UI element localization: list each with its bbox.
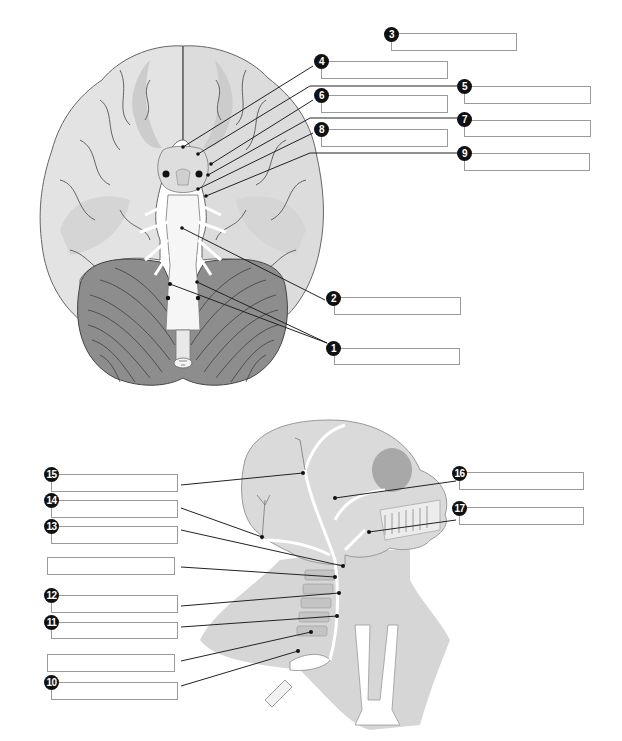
answer-box-13[interactable] <box>51 526 178 544</box>
answer-input-6[interactable] <box>322 98 447 114</box>
answer-input-13[interactable] <box>52 529 177 545</box>
answer-box-17[interactable] <box>459 507 584 525</box>
badge-3: 3 <box>384 27 399 42</box>
badge-13: 13 <box>44 519 59 534</box>
answer-input-2[interactable] <box>335 300 460 316</box>
answer-box-14[interactable] <box>51 500 178 518</box>
answer-box-4[interactable] <box>321 61 448 79</box>
answer-input-1[interactable] <box>335 352 459 367</box>
answer-box-2[interactable] <box>334 297 461 315</box>
badge-6: 6 <box>314 88 329 103</box>
badge-17: 17 <box>452 501 467 516</box>
answer-box-12[interactable] <box>51 595 178 613</box>
badge-10: 10 <box>44 675 59 690</box>
badge-1: 1 <box>326 341 341 356</box>
answer-input-7[interactable] <box>465 124 590 139</box>
badge-15: 15 <box>44 467 59 482</box>
answer-input-5[interactable] <box>465 89 590 105</box>
badge-8: 8 <box>314 122 329 137</box>
badge-7: 7 <box>457 112 472 127</box>
answer-box-5[interactable] <box>464 86 591 104</box>
badge-5: 5 <box>457 79 472 94</box>
answer-input-10[interactable] <box>52 685 177 701</box>
answer-input-11[interactable] <box>52 626 177 641</box>
badge-11: 11 <box>44 615 59 630</box>
answer-input-unnumbered-b[interactable] <box>48 657 174 673</box>
answer-input-4[interactable] <box>322 64 447 80</box>
answer-box-7[interactable] <box>464 120 591 137</box>
answer-input-14[interactable] <box>52 503 177 519</box>
answer-input-17[interactable] <box>460 510 583 526</box>
answer-box-10[interactable] <box>51 682 178 700</box>
answer-input-12[interactable] <box>52 598 177 614</box>
skull <box>242 420 447 565</box>
answer-input-8[interactable] <box>322 132 447 148</box>
brain-inferior-view <box>40 46 323 385</box>
answer-input-9[interactable] <box>465 156 589 172</box>
answer-box-1[interactable] <box>334 348 460 365</box>
head-neck-lateral-view <box>200 420 450 730</box>
answer-box-16[interactable] <box>459 472 584 490</box>
answer-box-11[interactable] <box>51 622 178 639</box>
answer-box-15[interactable] <box>51 474 178 492</box>
answer-input-unnumbered-a[interactable] <box>48 560 174 576</box>
answer-box-9[interactable] <box>464 153 590 171</box>
badge-16: 16 <box>452 466 467 481</box>
answer-box-3[interactable] <box>391 33 517 51</box>
answer-box-unnumbered-a[interactable] <box>47 557 175 575</box>
brainstem <box>166 195 200 330</box>
badge-9: 9 <box>457 146 472 161</box>
badge-12: 12 <box>44 588 59 603</box>
badge-4: 4 <box>314 54 329 69</box>
badge-2: 2 <box>326 291 341 306</box>
answer-box-6[interactable] <box>321 95 448 113</box>
badge-14: 14 <box>44 493 59 508</box>
answer-box-unnumbered-b[interactable] <box>47 654 175 672</box>
answer-input-15[interactable] <box>52 477 177 493</box>
answer-box-8[interactable] <box>321 129 448 147</box>
answer-input-16[interactable] <box>460 475 583 491</box>
answer-input-3[interactable] <box>392 36 516 52</box>
